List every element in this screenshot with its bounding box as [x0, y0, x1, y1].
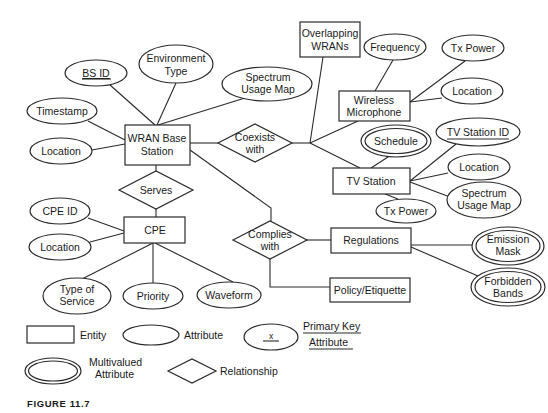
legend-label: Relationship	[220, 365, 278, 377]
label: with	[245, 143, 265, 155]
label: Bands	[493, 287, 523, 299]
edge-tv-spectrum	[410, 182, 450, 197]
edge-cpe-location	[90, 233, 124, 242]
legend-label: Multivalued	[89, 356, 142, 368]
edge-bs-timestamp	[88, 121, 125, 140]
edge-bs-location	[92, 144, 125, 150]
label: Location	[452, 85, 492, 97]
attribute-waveform: Waveform	[197, 282, 261, 308]
label: Timestamp	[36, 105, 88, 117]
label: Usage Map	[457, 199, 511, 211]
legend-attribute: Attribute	[123, 325, 223, 345]
attribute-location-tv: Location	[448, 154, 510, 180]
attribute-location-bs: Location	[30, 138, 92, 164]
edge-cpe-cpeid	[88, 218, 124, 231]
attribute-cpe-id: CPE ID	[30, 198, 90, 224]
edge-tv-schedule	[371, 157, 388, 168]
entity-cpe: CPE	[124, 217, 185, 243]
legend-relationship: Relationship	[168, 359, 278, 383]
entity-regulations: Regulations	[331, 228, 411, 253]
label: with	[260, 240, 280, 252]
attribute-bs-id: BS ID	[65, 60, 127, 86]
label: Coexists	[235, 131, 275, 143]
edge-bs-envtype	[157, 83, 176, 125]
entity-policy-etiquette: Policy/Etiquette	[330, 278, 410, 302]
attribute-tx-power-mic: Tx Power	[442, 35, 504, 61]
label: Mask	[495, 245, 521, 257]
legend-label: Attribute	[184, 329, 223, 341]
edge-bs-bsid	[110, 85, 155, 125]
relationship-coexists-with: Coexists with	[218, 124, 292, 162]
label: Location	[40, 241, 80, 253]
attribute-tv-station-id: TV Station ID	[436, 118, 520, 146]
entity-wran-base-station: WRAN Base Station	[125, 125, 190, 165]
legend-label: Attribute	[309, 336, 348, 348]
er-diagram: WRAN Base Station Overlapping WRANs Wire…	[0, 0, 548, 413]
legend: Entity Attribute x Primary Key Attribute…	[25, 320, 361, 384]
label: Tx Power	[384, 205, 429, 217]
edge-branch-mic	[310, 121, 358, 143]
attribute-forbidden-bands: Forbidden Bands	[471, 268, 545, 306]
label: Complies	[248, 228, 292, 240]
legend-label: Entity	[80, 329, 107, 341]
label: Wireless	[354, 94, 394, 106]
label: Frequency	[370, 41, 420, 53]
label: BS ID	[82, 67, 110, 79]
relationship-serves: Serves	[119, 171, 193, 209]
label: Type of	[60, 283, 95, 295]
edge-tv-txpower	[385, 194, 398, 199]
attribute-frequency: Frequency	[364, 34, 426, 60]
attribute-environment-type: Environment Type	[139, 45, 213, 83]
label: CPE ID	[42, 205, 77, 217]
attribute-location-mic: Location	[441, 78, 503, 104]
label: Regulations	[343, 234, 398, 246]
label: Spectrum	[246, 71, 291, 83]
edge-bs-spectrum	[158, 98, 245, 125]
edge-reg-forbidden	[411, 247, 478, 276]
attribute-schedule: Schedule	[361, 125, 431, 157]
edge-mic-frequency	[375, 60, 393, 91]
label: Overlapping	[302, 27, 359, 39]
edge-branch-overlapping	[310, 57, 323, 143]
label: Priority	[137, 290, 170, 302]
entity-overlapping-wrans: Overlapping WRANs	[300, 22, 360, 57]
legend-primary-key: x Primary Key Attribute	[244, 320, 361, 350]
attribute-location-cpe: Location	[29, 234, 91, 260]
label: Serves	[140, 184, 173, 196]
label: WRAN Base	[128, 132, 187, 144]
legend-label: Attribute	[95, 368, 134, 380]
edge-complies-policy	[270, 259, 330, 287]
label: Usage Map	[241, 83, 295, 95]
label: WRANs	[311, 40, 348, 52]
attribute-spectrum-usage-map-bs: Spectrum Usage Map	[222, 67, 312, 101]
label: Type	[165, 65, 188, 77]
label: Waveform	[205, 289, 253, 301]
attribute-timestamp: Timestamp	[27, 98, 97, 124]
entity-wireless-microphone: Wireless Microphone	[339, 91, 410, 121]
label: Forbidden	[484, 275, 531, 287]
attribute-emission-mask: Emission Mask	[472, 227, 544, 265]
figure-caption: FIGURE 11.7	[27, 398, 90, 409]
label: Spectrum	[462, 187, 507, 199]
legend-multivalued: Multivalued Attribute	[25, 356, 142, 384]
label: TV Station ID	[447, 126, 510, 138]
edge-branch-tv	[310, 143, 360, 168]
label: Tx Power	[451, 42, 496, 54]
label: Policy/Etiquette	[334, 284, 407, 296]
label: Emission	[487, 233, 530, 245]
label: TV Station	[346, 175, 395, 187]
label: Station	[141, 145, 174, 157]
attribute-spectrum-usage-map-tv: Spectrum Usage Map	[447, 182, 521, 218]
edge-cpe-typeofservice	[82, 243, 153, 279]
attribute-type-of-service: Type of Service	[43, 278, 111, 314]
attribute-priority: Priority	[123, 283, 183, 309]
edge-cpe-waveform	[155, 243, 233, 282]
attribute-tx-power-tv: Tx Power	[376, 199, 436, 223]
label: Microphone	[347, 106, 402, 118]
label: Schedule	[374, 135, 418, 147]
label: Location	[41, 145, 81, 157]
label: Environment	[147, 52, 206, 64]
legend-label: Primary Key	[303, 320, 361, 332]
label: Service	[59, 295, 94, 307]
legend-entity: Entity	[27, 326, 107, 343]
